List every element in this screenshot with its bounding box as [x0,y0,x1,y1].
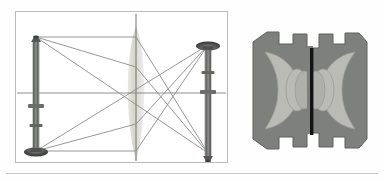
caption-area [15,166,375,173]
image-collar-upper [202,71,215,74]
ray-diagram-panel [15,11,228,163]
ray-diagram-canvas [16,12,227,162]
object-collar-lower [28,104,44,108]
objective-cross-section-panel [249,28,371,153]
objective-cross-section-canvas [249,28,371,153]
object-candlestick [24,36,48,157]
object-shaft [33,42,40,148]
image-collar-lower [200,90,216,94]
image-candlestick [196,42,220,163]
ray-bundle [36,37,208,153]
object-tip-cap [33,36,39,39]
object-collar-upper [30,124,43,127]
optics-figure [0,0,384,181]
bottom-separator [6,173,378,174]
image-shaft [205,50,212,156]
aperture-stop [310,48,313,135]
